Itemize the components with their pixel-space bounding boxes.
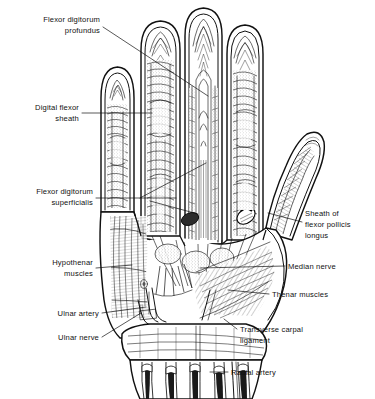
- label-radial-artery: Radial artery: [231, 368, 276, 377]
- label-thenar-muscles: Thenar muscles: [272, 290, 328, 299]
- forearm-flexor-tendons: [130, 360, 262, 399]
- label-flexor-digitorum-profundus-line2: profundus: [65, 26, 100, 35]
- label-ulnar-artery: Ulnar artery: [58, 309, 100, 318]
- label-ulnar-nerve: Ulnar nerve: [58, 333, 99, 342]
- anatomical-figure-palmar-hand: Flexor digitorum profundus Digital flexo…: [0, 0, 375, 399]
- little-finger: [101, 67, 134, 212]
- label-hypothenar-muscles-line2: muscles: [64, 269, 93, 278]
- label-digital-flexor-sheath-line2: sheath: [55, 114, 79, 123]
- label-digital-flexor-sheath-line1: Digital flexor: [35, 103, 79, 112]
- label-flexor-digitorum-superficialis-line1: Flexor digitorum: [36, 187, 93, 196]
- index-finger: [227, 25, 263, 240]
- ring-finger-contents: [147, 32, 174, 235]
- label-sheath-flexor-pollicis-longus-line2: flexor pollicis: [305, 220, 351, 229]
- label-flexor-digitorum-profundus-line1: Flexor digitorum: [43, 15, 100, 24]
- label-median-nerve: Median nerve: [288, 262, 336, 271]
- label-flexor-digitorum-superficialis-line2: superficialis: [51, 198, 93, 207]
- label-hypothenar-muscles-line1: Hypothenar: [52, 258, 93, 267]
- middle-finger: [185, 8, 222, 244]
- label-transverse-carpal-ligament-line1: Transverse carpal: [240, 325, 303, 334]
- label-sheath-flexor-pollicis-longus-line1: Sheath of: [305, 209, 340, 218]
- label-transverse-carpal-ligament-line2: ligament: [240, 336, 271, 345]
- label-sheath-flexor-pollicis-longus-line3: longus: [305, 231, 328, 240]
- hand-illustration: Flexor digitorum profundus Digital flexo…: [0, 0, 375, 399]
